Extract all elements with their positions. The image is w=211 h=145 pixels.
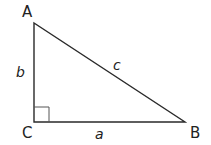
right-angle-marker — [34, 107, 49, 122]
side-label-b: b — [16, 64, 25, 80]
vertex-label-c: C — [22, 124, 32, 142]
vertex-label-b: B — [190, 124, 200, 142]
right-triangle-diagram: A C B b c a — [0, 0, 211, 145]
side-label-c: c — [113, 57, 121, 73]
side-label-a: a — [95, 126, 104, 142]
triangle-abc — [34, 23, 185, 122]
vertex-label-a: A — [22, 3, 33, 21]
